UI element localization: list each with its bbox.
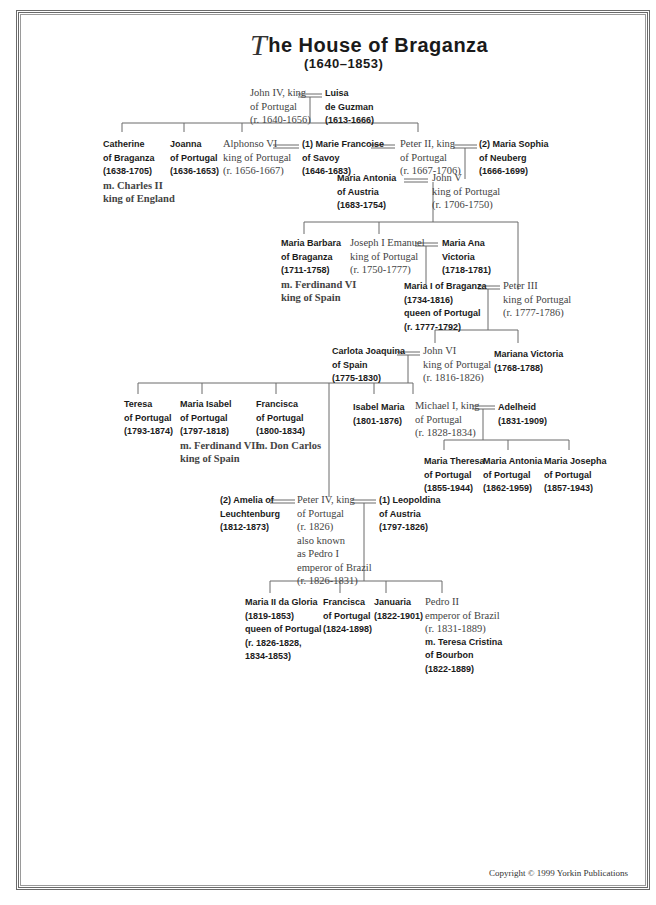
person-reign: (r. 1816-1826) xyxy=(423,371,491,385)
person-name-cont: of Portugal xyxy=(170,152,219,166)
person-dates: (1775-1830) xyxy=(332,372,405,386)
person-title: of Portugal xyxy=(400,151,461,165)
person-marriage: m. Teresa Cristina xyxy=(425,636,502,650)
person-dates: (1800-1834) xyxy=(256,425,321,439)
person-title: of Portugal xyxy=(250,100,311,114)
person-pedro-ii: Pedro II emperor of Brazil (r. 1831-1889… xyxy=(425,595,502,676)
person-name-cont: of Portugal xyxy=(483,469,542,483)
person-name: Maria Antonia xyxy=(337,172,396,186)
person-isabel-maria: Isabel Maria (1801-1876) xyxy=(353,401,405,428)
person-name: Carlota Joaquina xyxy=(332,345,405,359)
person-leopoldina: (1) Leopoldina of Austria (1797-1826) xyxy=(379,494,441,535)
person-reign: (r. 1777-1786) xyxy=(503,306,571,320)
person-maria-theresa: Maria Theresa of Portugal (1855-1944) xyxy=(424,455,485,496)
person-dates: (1797-1818) xyxy=(180,425,259,439)
person-name: Peter III xyxy=(503,279,571,293)
person-reign: (r. 1826) xyxy=(297,520,372,534)
person-dates: (1824-1898) xyxy=(323,623,372,637)
person-dates: (1636-1653) xyxy=(170,165,219,179)
person-name: Isabel Maria xyxy=(353,401,405,415)
person-name-cont: of Portugal xyxy=(180,412,259,426)
person-joseph-i: Joseph I Emanuel king of Portugal (r. 17… xyxy=(350,236,425,277)
person-title: queen of Portugal xyxy=(404,307,487,321)
person-maria-antonia-portugal: Maria Antonia of Portugal (1862-1959) xyxy=(483,455,542,496)
person-alphonso-vi: Alphonso VI king of Portugal (r. 1656-16… xyxy=(223,137,291,178)
person-dates: (1822-1901) xyxy=(374,610,423,624)
person-maria-i: Maria I of Braganza (1734-1816) queen of… xyxy=(404,280,487,334)
person-name: (1) Leopoldina xyxy=(379,494,441,508)
person-dates: (1797-1826) xyxy=(379,521,441,535)
person-michael-i: Michael I, king of Portugal (r. 1828-183… xyxy=(415,399,479,440)
person-marriage-dates: (1822-1889) xyxy=(425,663,502,677)
person-dates: (1857-1943) xyxy=(544,482,607,496)
person-title: queen of Portugal xyxy=(245,623,322,637)
person-marriage: m. Ferdinand VI xyxy=(281,278,356,292)
person-alias: also known xyxy=(297,534,372,548)
person-john-vi: John VI king of Portugal (r. 1816-1826) xyxy=(423,344,491,385)
person-maria-antonia-austria: Maria Antonia of Austria (1683-1754) xyxy=(337,172,396,213)
person-name: John V xyxy=(432,171,500,185)
person-marriage-cont: king of England xyxy=(103,192,175,206)
person-name: Maria I of Braganza xyxy=(404,280,487,294)
person-teresa: Teresa of Portugal (1793-1874) xyxy=(124,398,173,439)
person-name: Joseph I Emanuel xyxy=(350,236,425,250)
person-dates: (1768-1788) xyxy=(494,362,563,376)
person-name: Pedro II xyxy=(425,595,502,609)
person-maria-josepha: Maria Josepha of Portugal (1857-1943) xyxy=(544,455,607,496)
person-name-cont: of Portugal xyxy=(323,610,372,624)
person-reign: (r. 1640-1656) xyxy=(250,113,311,127)
person-name-cont: of Braganza xyxy=(103,152,175,166)
person-title: of Portugal xyxy=(297,507,372,521)
person-joanna: Joanna of Portugal (1636-1653) xyxy=(170,138,219,179)
person-dates: (1734-1816) xyxy=(404,294,487,308)
person-name: (1) Marie Francoise xyxy=(302,138,384,152)
person-title: king of Portugal xyxy=(503,293,571,307)
person-name: Francisca xyxy=(256,398,321,412)
person-maria-barbara: Maria Barbara of Braganza (1711-1758) m.… xyxy=(281,237,356,305)
person-dates: (1638-1705) xyxy=(103,165,175,179)
person-title: king of Portugal xyxy=(432,185,500,199)
person-john-v: John V king of Portugal (r. 1706-1750) xyxy=(432,171,500,212)
person-name: Maria II da Gloria xyxy=(245,596,322,610)
person-name-cont: of Braganza xyxy=(281,251,356,265)
person-francisca-1800: Francisca of Portugal (1800-1834) m. Don… xyxy=(256,398,321,452)
person-title-2: emperor of Brazil xyxy=(297,561,372,575)
person-name: Mariana Victoria xyxy=(494,348,563,362)
person-dates: (1812-1873) xyxy=(220,521,280,535)
person-peter-iv: Peter IV, king of Portugal (r. 1826) als… xyxy=(297,493,372,588)
person-marriage: m. Charles II xyxy=(103,179,175,193)
person-name: Maria Isabel xyxy=(180,398,259,412)
person-name-cont: of Portugal xyxy=(124,412,173,426)
person-name: (2) Amelia of xyxy=(220,494,280,508)
person-name: Maria Antonia xyxy=(483,455,542,469)
person-dates: (1801-1876) xyxy=(353,415,405,429)
person-dates: (1819-1853) xyxy=(245,610,322,624)
person-title: of Portugal xyxy=(415,413,479,427)
person-name: John VI xyxy=(423,344,491,358)
tree-connectors xyxy=(0,0,656,905)
person-name-cont: Leuchtenburg xyxy=(220,508,280,522)
person-title: king of Portugal xyxy=(423,358,491,372)
person-luisa-de-guzman: Luisa de Guzman (1613-1666) xyxy=(325,87,374,128)
person-name-cont: of Spain xyxy=(332,359,405,373)
person-reign: (r. 1706-1750) xyxy=(432,198,500,212)
person-title: king of Portugal xyxy=(223,151,291,165)
person-marriage: m. Don Carlos xyxy=(256,439,321,453)
person-maria-ii: Maria II da Gloria (1819-1853) queen of … xyxy=(245,596,322,664)
person-francisca-1824: Francisca of Portugal (1824-1898) xyxy=(323,596,372,637)
person-name: Adelheid xyxy=(498,401,547,415)
person-name: Teresa xyxy=(124,398,173,412)
person-name-cont: de Guzman xyxy=(325,101,374,115)
person-reign-2: (r. 1826-1831) xyxy=(297,574,372,588)
person-amelia-of-leuchtenburg: (2) Amelia of Leuchtenburg (1812-1873) xyxy=(220,494,280,535)
person-maria-ana-victoria: Maria Ana Victoria (1718-1781) xyxy=(442,237,491,278)
person-name: Maria Josepha xyxy=(544,455,607,469)
person-reign: (r. 1656-1667) xyxy=(223,164,291,178)
person-name: Francisca xyxy=(323,596,372,610)
person-catherine-of-braganza: Catherine of Braganza (1638-1705) m. Cha… xyxy=(103,138,175,206)
person-alias-cont: as Pedro I xyxy=(297,547,372,561)
person-carlota-joaquina: Carlota Joaquina of Spain (1775-1830) xyxy=(332,345,405,386)
person-name-cont: of Neuberg xyxy=(479,152,549,166)
person-name: Alphonso VI xyxy=(223,137,291,151)
person-name-cont: of Portugal xyxy=(544,469,607,483)
